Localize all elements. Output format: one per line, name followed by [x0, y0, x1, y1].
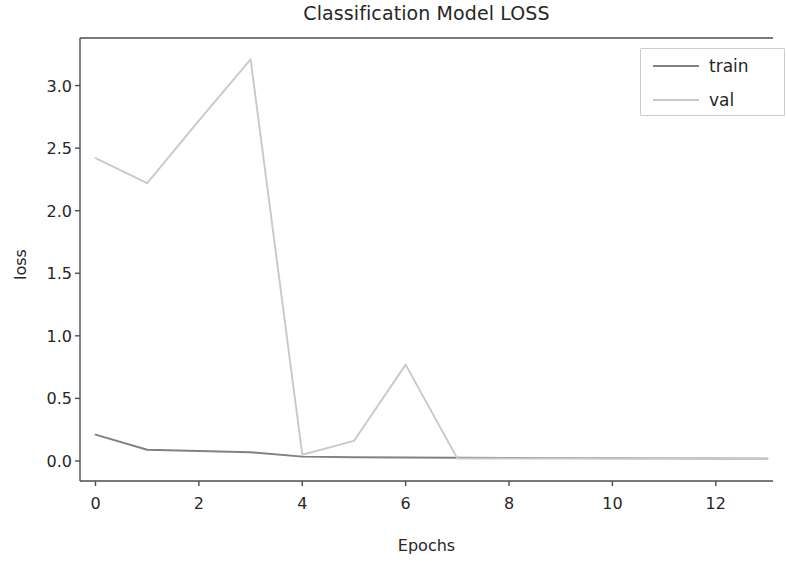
legend-item-train: train — [641, 49, 786, 83]
legend-swatch-val — [653, 99, 699, 101]
legend: trainval — [640, 48, 785, 116]
x-tick-marks — [96, 481, 716, 486]
legend-label: train — [709, 56, 749, 76]
series-line-val — [96, 59, 768, 458]
y-tick-marks — [75, 86, 80, 461]
legend-item-val: val — [641, 83, 786, 117]
series-line-train — [96, 435, 768, 459]
series-line-group — [96, 59, 768, 458]
legend-swatch-train — [653, 65, 699, 67]
legend-label: val — [709, 90, 734, 110]
